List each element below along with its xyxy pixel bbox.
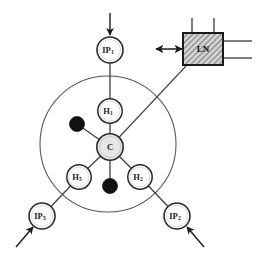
mechanism-diagram: C H1 H2 H5	[0, 0, 256, 258]
atom-node-C[interactable]: C	[97, 134, 123, 160]
ip-node-IP2[interactable]: IP2	[164, 203, 190, 229]
ip-label-IP2-subscript: 2	[178, 215, 181, 221]
ip-label-IP5-subscript: 5	[43, 215, 46, 221]
input-arrow-ip5	[16, 227, 33, 247]
diagram-canvas: C H1 H2 H5	[0, 0, 256, 258]
ln-box-label: LN	[197, 44, 210, 54]
ip-label-IP2-symbol: IP	[169, 211, 178, 221]
ip-label-IP1-symbol: IP	[102, 45, 111, 55]
atom-node-H1[interactable]: H1	[98, 99, 122, 123]
atom-node-H2[interactable]: H2	[128, 165, 152, 189]
filled-atom-bottom	[103, 179, 118, 194]
atom-label-C: C	[107, 142, 113, 152]
ip-node-IP5[interactable]: IP5	[29, 203, 55, 229]
atom-label-H5-subscript: 5	[79, 176, 82, 182]
atom-label-H1-subscript: 1	[110, 110, 113, 116]
ln-box-group[interactable]: LN	[183, 18, 252, 65]
atom-node-H5[interactable]: H5	[67, 165, 91, 189]
ip-node-IP1[interactable]: IP1	[97, 37, 123, 63]
ip-label-IP5-symbol: IP	[34, 211, 43, 221]
filled-atom-upper-left	[70, 117, 85, 132]
atom-label-H2-subscript: 2	[140, 176, 143, 182]
ip-label-IP1-subscript: 1	[111, 49, 114, 55]
input-arrow-ip2	[187, 227, 204, 247]
